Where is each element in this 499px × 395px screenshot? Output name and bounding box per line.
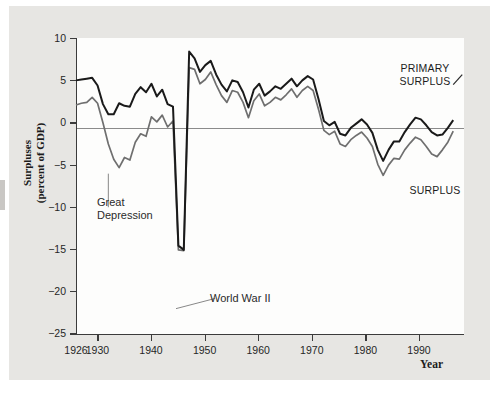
figure-page: Surpluses (percent of GDP) Year 10 5 0 −… xyxy=(0,0,499,395)
chart-lines xyxy=(0,0,499,395)
series-label-surplus: SURPLUS xyxy=(399,184,471,197)
annotation-world-war-2: World War II xyxy=(210,292,271,305)
great-depression-line2: Depression xyxy=(97,209,153,221)
great-depression-line1: Great xyxy=(97,196,125,208)
annotation-great-depression: Great Depression xyxy=(97,196,153,222)
series-label-primary-surplus: PRIMARY SURPLUS xyxy=(389,62,461,87)
primary-surplus-label-line1: PRIMARY xyxy=(400,62,449,74)
primary-surplus-label-line2: SURPLUS xyxy=(400,75,451,87)
